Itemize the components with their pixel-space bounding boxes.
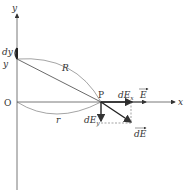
dy-label: dy	[2, 47, 14, 57]
r-label: r	[56, 115, 61, 125]
dE-label: dE	[134, 128, 147, 139]
svg-text:E: E	[139, 90, 147, 100]
origin-label: O	[4, 98, 11, 108]
E-label: E	[139, 89, 148, 100]
R-label: R	[61, 63, 69, 73]
arc-r	[17, 102, 101, 114]
y-axis-label: y	[11, 3, 18, 13]
charge-element-dy	[15, 48, 17, 59]
vector-dE	[101, 102, 131, 122]
y-position-label: y	[2, 59, 9, 69]
field-diagram: y x O dy y R r P dEx E dEy dE	[0, 0, 187, 195]
x-axis-label: x	[178, 97, 183, 107]
point-P-label: P	[98, 90, 104, 100]
svg-text:dE: dE	[134, 129, 147, 139]
dEy-label: dEy	[84, 115, 100, 127]
distance-line-R	[17, 59, 101, 102]
dEx-label: dEx	[118, 90, 134, 101]
